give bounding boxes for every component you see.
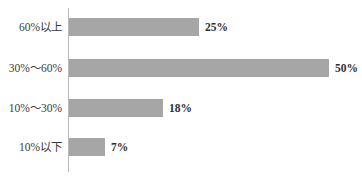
bar-row: 10%～30% 18% — [0, 89, 362, 127]
bar-segment — [69, 138, 105, 156]
bar-row: 60%以上 25% — [0, 8, 362, 46]
plot-area: 60%以上 25% 30%～60% 50% 10%～30% 18% 10%以下 — [0, 0, 362, 185]
category-label: 60%以上 — [0, 8, 62, 46]
bar-value-label: 25% — [199, 18, 228, 36]
bar-segment — [69, 99, 163, 117]
category-label: 10%～30% — [0, 89, 62, 127]
bar-row: 10%以下 7% — [0, 128, 362, 166]
bar-segment — [69, 59, 329, 77]
bar-value-label: 7% — [105, 138, 128, 156]
horizontal-bar-chart: 60%以上 25% 30%～60% 50% 10%～30% 18% 10%以下 — [0, 0, 362, 185]
bar-value-label: 50% — [329, 59, 358, 77]
bar-value-label: 18% — [163, 99, 192, 117]
category-label: 10%以下 — [0, 128, 62, 166]
category-label: 30%～60% — [0, 49, 62, 87]
bar-row: 30%～60% 50% — [0, 49, 362, 87]
bar-segment — [69, 18, 199, 36]
